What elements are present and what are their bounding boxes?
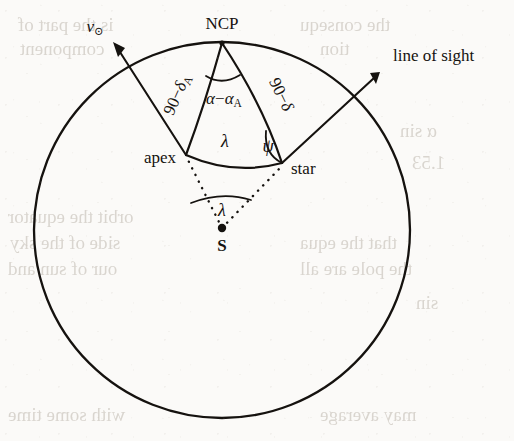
label-solar-velocity: v⊙ [86,17,103,37]
label-star: star [291,159,316,178]
label-sun-center: S [217,236,226,255]
label-angle-at-ncp: α−αA [206,89,242,109]
figure-canvas: is the part ofthe consequcomponenttionα … [0,0,514,441]
radius-s-to-apex [188,160,222,228]
line-of-sight-arrowhead [370,72,380,84]
label-ncp: NCP [205,14,238,33]
label-line-of-sight: line of sight [393,46,474,65]
celestial-sphere-diagram: NCP v⊙ line of sight 90−δA 90−δ α−αA λ ψ… [0,0,514,441]
sun-center-point [218,224,226,232]
label-side-ncp-apex: 90−δA [159,70,195,118]
ncp-vertex-point [219,40,224,45]
label-angle-at-center: λ [217,200,226,220]
label-apex: apex [144,148,177,167]
arc-apex-to-star [186,155,282,168]
label-side-apex-star: λ [220,131,229,151]
radius-s-to-star [222,168,280,228]
line-of-sight-vector [282,78,374,163]
label-side-ncp-star: 90−δ [265,75,298,115]
solar-velocity-arrowhead [113,42,125,57]
label-angle-at-star: ψ [262,136,274,156]
